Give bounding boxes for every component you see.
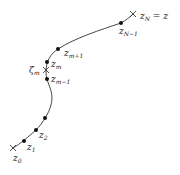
contour-curve (13, 14, 133, 148)
label-zm+1: zm+1 (63, 48, 83, 59)
label-z1: z1 (26, 142, 36, 153)
label-z0: z0 (12, 153, 22, 164)
point-z3-dot (43, 116, 47, 120)
point-zm+1-dot (56, 47, 60, 51)
point-zm-dot (45, 60, 49, 64)
point-zm-1-dot (45, 77, 49, 81)
point-z1-dot (22, 139, 26, 143)
label-zN: zN = z (139, 11, 168, 22)
point-z2-dot (34, 128, 38, 132)
label-zN-1: zN−1 (118, 26, 138, 37)
end-cross-marker (130, 11, 136, 17)
contour-diagram: z0 z1 z2 zm−1 zm zm+1 zN−1 ζm zN = z (0, 0, 180, 175)
point-zN-1-dot (119, 21, 123, 25)
label-z2: z2 (38, 130, 48, 141)
label-zeta-m: ζm (29, 65, 40, 76)
label-zm-1: zm−1 (50, 74, 70, 85)
start-cross-marker (10, 145, 16, 151)
label-zm: zm (50, 59, 62, 70)
